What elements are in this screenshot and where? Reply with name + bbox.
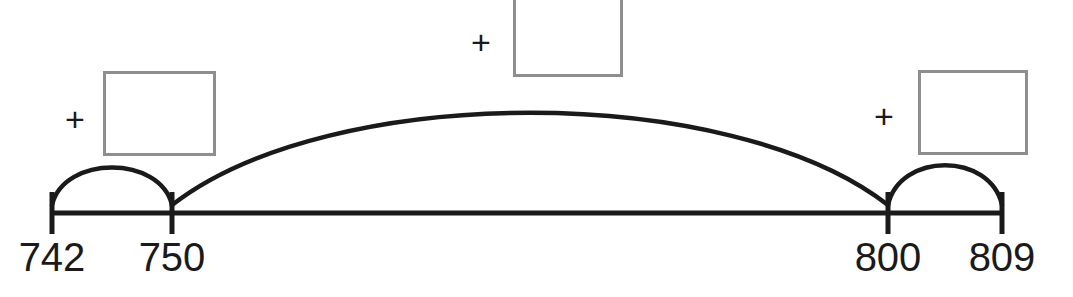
plus-icon-3: +: [869, 99, 899, 133]
plus-icon-2: +: [466, 25, 496, 59]
jump-arc-2: [172, 113, 888, 205]
answer-box-2[interactable]: [513, 0, 623, 77]
answer-box-1[interactable]: [103, 71, 216, 156]
number-line-diagram: + + + 742 750 800 809: [0, 0, 1073, 297]
answer-box-3[interactable]: [918, 70, 1028, 155]
jump-arc-3: [888, 165, 1002, 205]
tick-label-800: 800: [828, 237, 948, 277]
tick-label-809: 809: [942, 237, 1062, 277]
tick-label-750: 750: [112, 237, 232, 277]
plus-icon-1: +: [60, 102, 90, 136]
tick-label-742: 742: [0, 237, 112, 277]
jump-arc-1: [52, 168, 172, 206]
